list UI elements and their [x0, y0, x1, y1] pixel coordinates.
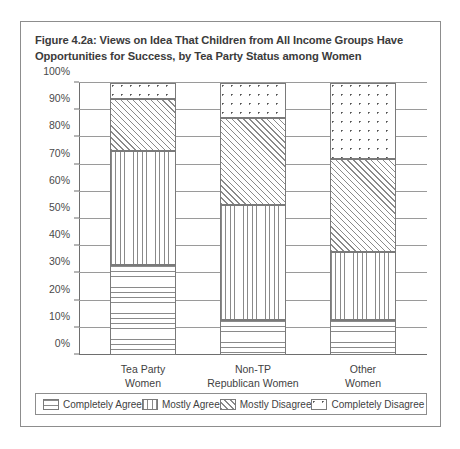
bar-other-women[interactable]	[330, 83, 396, 355]
bar-segment-completely-disagree[interactable]	[330, 83, 396, 159]
y-axis-tick-label-90%: 90%	[49, 92, 70, 104]
y-axis-tick-mark-50	[74, 218, 79, 219]
bar-segment-mostly-disagree[interactable]	[110, 99, 176, 151]
legend-label-mostly-agree: Mostly Agree	[162, 399, 220, 410]
legend-label-mostly-disagree: Mostly Disagree	[240, 399, 312, 410]
legend-swatch-completely-disagree-icon	[311, 399, 327, 410]
y-axis-tick-mark-20	[74, 299, 79, 300]
y-axis-tick-mark-40	[74, 245, 79, 246]
y-axis-tick-mark-0	[74, 354, 79, 355]
y-axis-tick-mark-70	[74, 163, 79, 164]
y-axis-tick-label-70%: 70%	[49, 147, 70, 159]
bar-segment-completely-disagree[interactable]	[220, 83, 286, 118]
bar-segment-completely-agree[interactable]	[110, 265, 176, 355]
y-axis-tick-label-80%: 80%	[49, 119, 70, 131]
y-axis-tick-mark-30	[74, 272, 79, 273]
y-axis-tick-label-0%: 0%	[55, 337, 70, 349]
legend-item-mostly-disagree[interactable]: Mostly Disagree	[220, 399, 312, 410]
bar-tea-party-women[interactable]	[110, 83, 176, 355]
bar-non-tp-republican-women[interactable]	[220, 83, 286, 355]
y-axis-tick-label-20%: 20%	[49, 283, 70, 295]
legend-label-completely-agree: Completely Agree	[63, 399, 142, 410]
chart-title: Figure 4.2a: Views on Idea That Children…	[35, 33, 427, 64]
bar-segment-mostly-disagree[interactable]	[220, 118, 286, 205]
legend-item-completely-agree[interactable]: Completely Agree	[43, 399, 142, 410]
y-axis-tick-mark-100	[74, 82, 79, 83]
legend-item-completely-disagree[interactable]: Completely Disagree	[311, 399, 424, 410]
y-axis-tick-label-40%: 40%	[49, 228, 70, 240]
bar-segment-completely-agree[interactable]	[220, 320, 286, 355]
legend-label-completely-disagree: Completely Disagree	[331, 399, 424, 410]
bar-segment-completely-disagree[interactable]	[110, 83, 176, 99]
legend-swatch-mostly-disagree-icon	[220, 399, 236, 410]
legend-item-mostly-agree[interactable]: Mostly Agree	[142, 399, 220, 410]
y-axis-tick-label-30%: 30%	[49, 255, 70, 267]
y-axis-tick-mark-10	[74, 326, 79, 327]
x-axis-label-other-women: Other Women	[298, 362, 428, 390]
plot-area: 0%10%20%30%40%50%60%70%80%90%100% Tea Pa…	[79, 83, 427, 355]
x-axis-label-line-2: Women	[298, 376, 428, 390]
y-axis-tick-label-60%: 60%	[49, 174, 70, 186]
legend-swatch-completely-agree-icon	[43, 399, 59, 410]
y-axis-tick-label-10%: 10%	[49, 310, 70, 322]
bar-segment-mostly-agree[interactable]	[110, 151, 176, 265]
y-axis-tick-mark-80	[74, 136, 79, 137]
legend-swatch-mostly-agree-icon	[142, 399, 158, 410]
bar-segment-mostly-disagree[interactable]	[330, 159, 396, 251]
bar-segment-completely-agree[interactable]	[330, 320, 396, 355]
bar-segment-mostly-agree[interactable]	[330, 252, 396, 320]
bar-segment-mostly-agree[interactable]	[220, 205, 286, 319]
chart-legend: Completely Agree Mostly Agree Mostly Dis…	[35, 393, 427, 415]
y-axis-tick-label-50%: 50%	[49, 201, 70, 213]
x-axis-label-line-1: Other	[298, 362, 428, 376]
y-axis-tick-mark-60	[74, 190, 79, 191]
y-axis-tick-mark-90	[74, 109, 79, 110]
figure-container: Figure 4.2a: Views on Idea That Children…	[20, 21, 441, 427]
y-axis-tick-label-100%: 100%	[43, 65, 70, 77]
